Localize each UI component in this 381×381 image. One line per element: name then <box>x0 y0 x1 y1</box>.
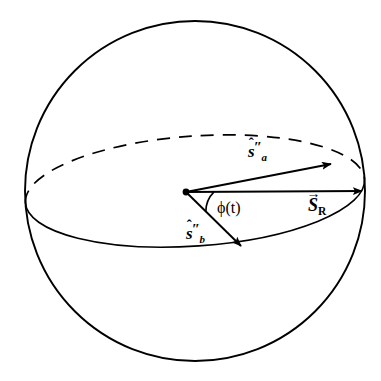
hat-icon: ˆ <box>249 136 254 151</box>
s-b-subscript: b <box>199 233 205 245</box>
sphere-vector-diagram: ˆ s ″a ˆ s ″b → S R ϕ(t) <box>0 0 381 381</box>
vector-arrow-icon: → <box>307 187 321 201</box>
vector-label-s-a: ˆ s ″a <box>248 143 268 160</box>
vector-label-s-r: → S R <box>308 196 326 214</box>
vector-label-s-b: ˆ s ″b <box>186 225 206 242</box>
s-r-base: → S <box>308 196 318 214</box>
hat-icon: ˆ <box>187 218 192 233</box>
s-a-subscript: a <box>261 151 267 163</box>
vector-s-r <box>186 191 362 192</box>
s-a-glyph-group: ˆ s ″a <box>248 143 268 160</box>
s-b-glyph-group: ˆ s ″b <box>186 225 206 242</box>
s-r-subscript: R <box>318 205 326 217</box>
phi-angle-arc <box>206 192 214 212</box>
diagram-canvas <box>0 0 381 381</box>
origin-point <box>183 189 190 196</box>
s-r-glyph-group: → S R <box>308 196 326 214</box>
phi-angle-label: ϕ(t) <box>217 200 241 216</box>
